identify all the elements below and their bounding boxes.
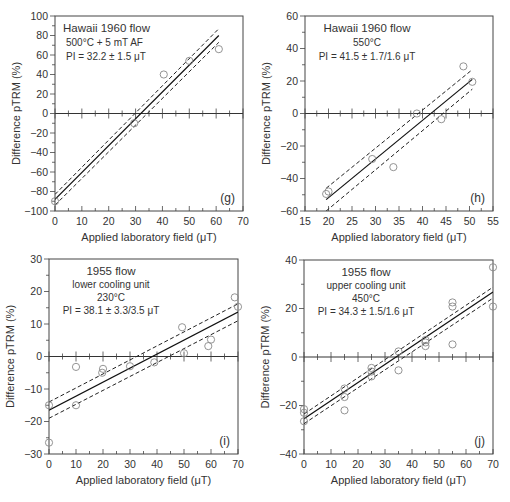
x-axis-label: Applied laboratory field (μT)	[81, 231, 216, 243]
y-tick-label: −60	[30, 166, 48, 178]
y-tick-label: −20	[24, 415, 42, 427]
data-point	[449, 303, 456, 310]
y-tick-label: 30	[30, 253, 42, 265]
x-tick-label: 30	[370, 215, 382, 227]
data-point	[341, 407, 348, 414]
x-axis-label: Applied laboratory field (μT)	[331, 231, 466, 243]
y-axis-label: Difference pTRM (%)	[260, 62, 272, 165]
y-axis-label: Difference pTRM (%)	[10, 62, 22, 165]
x-tick-label: 30	[130, 215, 142, 227]
x-tick-label: 20	[323, 215, 335, 227]
confidence-bound-lower	[55, 42, 219, 205]
panel-h-chart: 152025303540455055−60−40−200204060Applie…	[260, 10, 499, 244]
annotation-line: 230°C	[97, 292, 125, 303]
y-tick-label: −10	[24, 383, 42, 395]
data-point	[438, 116, 445, 123]
x-tick-label: 50	[464, 215, 476, 227]
y-tick-label: 40	[36, 68, 48, 80]
y-tick-label: 20	[286, 75, 298, 87]
x-tick-label: 40	[406, 458, 418, 470]
y-tick-label: −40	[30, 146, 48, 158]
x-tick-label: 50	[178, 458, 190, 470]
x-tick-label: 20	[97, 458, 109, 470]
x-tick-label: 10	[76, 215, 88, 227]
annotation-line: PI = 34.3 ± 1.5/1.6 μT	[318, 306, 415, 317]
x-tick-label: 25	[346, 215, 358, 227]
data-point	[449, 299, 456, 306]
panel-label: (h)	[470, 191, 485, 205]
annotation-line: PI = 38.1 ± 3.3/3.5 μT	[63, 305, 160, 316]
panel-i-chart: 010203040506070−30−20−100102030Applied l…	[4, 253, 244, 487]
y-tick-label: 20	[285, 302, 297, 314]
x-tick-label: 35	[393, 215, 405, 227]
confidence-bound-upper	[326, 70, 472, 189]
x-axis-label: Applied laboratory field (μT)	[76, 474, 211, 486]
x-tick-label: 20	[103, 215, 115, 227]
y-tick-label: 100	[30, 10, 48, 22]
x-tick-label: 40	[157, 215, 169, 227]
figure-canvas: 010203040506070−100−80−60−40−20020406080…	[0, 0, 510, 502]
panel-g-chart: 010203040506070−100−80−60−40−20020406080…	[10, 10, 249, 244]
x-tick-label: 40	[417, 215, 429, 227]
panel-label: (i)	[219, 434, 230, 448]
data-point	[215, 46, 222, 53]
panel-j-chart: 010203040506070−40−2002040Applied labora…	[259, 254, 499, 487]
data-point	[395, 348, 402, 355]
annotation-line: Hawaii 1960 flow	[63, 22, 151, 34]
x-tick-label: 60	[460, 458, 472, 470]
data-point	[390, 164, 397, 171]
annotation-line: 1955 flow	[341, 266, 391, 278]
data-point	[160, 71, 167, 78]
x-tick-label: 0	[301, 458, 307, 470]
x-tick-label: 15	[299, 215, 311, 227]
x-tick-label: 60	[205, 458, 217, 470]
y-tick-label: 40	[286, 42, 298, 54]
y-tick-label: −20	[279, 399, 297, 411]
data-point	[231, 294, 238, 301]
y-tick-label: −20	[280, 140, 298, 152]
y-tick-label: 60	[36, 49, 48, 61]
data-point	[151, 359, 158, 366]
confidence-bound-lower	[326, 89, 472, 211]
x-tick-label: 30	[124, 458, 136, 470]
x-tick-label: 30	[379, 458, 391, 470]
y-tick-label: −20	[30, 127, 48, 139]
y-tick-label: −60	[280, 205, 298, 217]
y-tick-label: −40	[279, 448, 297, 460]
x-tick-label: 10	[325, 458, 337, 470]
x-tick-label: 50	[183, 215, 195, 227]
confidence-bound-lower	[49, 321, 238, 419]
data-point	[179, 324, 186, 331]
annotation-line: PI = 41.5 ± 1.7/1.6 μT	[319, 51, 416, 62]
y-tick-label: −40	[280, 172, 298, 184]
x-tick-label: 60	[210, 215, 222, 227]
y-tick-label: 60	[286, 10, 298, 22]
x-axis-label: Applied laboratory field (μT)	[331, 474, 466, 486]
confidence-bound-upper	[49, 304, 238, 402]
data-point	[460, 63, 467, 70]
annotation-line: 1955 flow	[86, 265, 136, 277]
y-axis-label: Difference pTRM (%)	[259, 305, 271, 408]
x-tick-label: 50	[433, 458, 445, 470]
y-tick-label: 0	[42, 107, 48, 119]
x-tick-label: 40	[151, 458, 163, 470]
y-tick-label: 20	[36, 88, 48, 100]
data-point	[395, 367, 402, 374]
data-point	[449, 341, 456, 348]
x-tick-label: 55	[487, 215, 499, 227]
annotation-line: 500°C + 5 mT AF	[66, 37, 143, 48]
y-tick-label: 0	[291, 351, 297, 363]
annotation-line: lower cooling unit	[72, 279, 149, 290]
y-tick-label: 0	[292, 107, 298, 119]
panel-label: (j)	[474, 434, 485, 448]
x-tick-label: 10	[70, 458, 82, 470]
annotation-line: PI = 32.2 ± 1.5 μT	[66, 51, 146, 62]
panel-label: (g)	[220, 191, 235, 205]
annotation-line: Hawaii 1960 flow	[324, 22, 412, 34]
x-tick-label: 70	[487, 458, 499, 470]
y-tick-label: 0	[36, 350, 42, 362]
y-tick-label: 20	[30, 285, 42, 297]
x-tick-label: 70	[232, 458, 244, 470]
y-tick-label: 10	[30, 318, 42, 330]
data-point	[72, 363, 79, 370]
